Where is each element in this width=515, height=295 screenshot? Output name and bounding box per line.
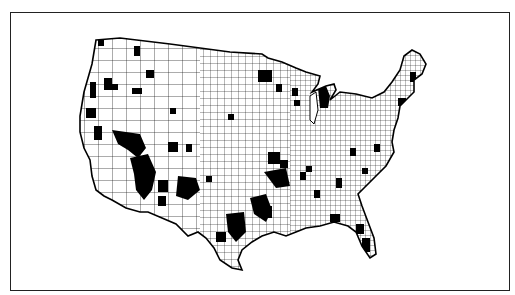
us-county-map: [0, 0, 515, 295]
county-grid: [70, 30, 440, 280]
